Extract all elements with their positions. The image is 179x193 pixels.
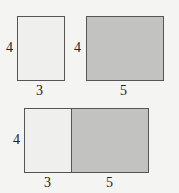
bottom-left-rectangle — [24, 108, 72, 173]
top-left-height-label: 4 — [6, 41, 13, 55]
top-left-width-label: 3 — [36, 84, 43, 98]
bottom-right-rectangle — [71, 108, 149, 173]
top-right-rectangle — [86, 16, 164, 81]
bottom-height-label: 4 — [13, 133, 20, 147]
top-left-rectangle — [17, 16, 65, 81]
bottom-right-width-label: 5 — [106, 176, 113, 190]
top-right-height-label: 4 — [74, 41, 81, 55]
top-right-width-label: 5 — [120, 84, 127, 98]
bottom-left-width-label: 3 — [44, 176, 51, 190]
